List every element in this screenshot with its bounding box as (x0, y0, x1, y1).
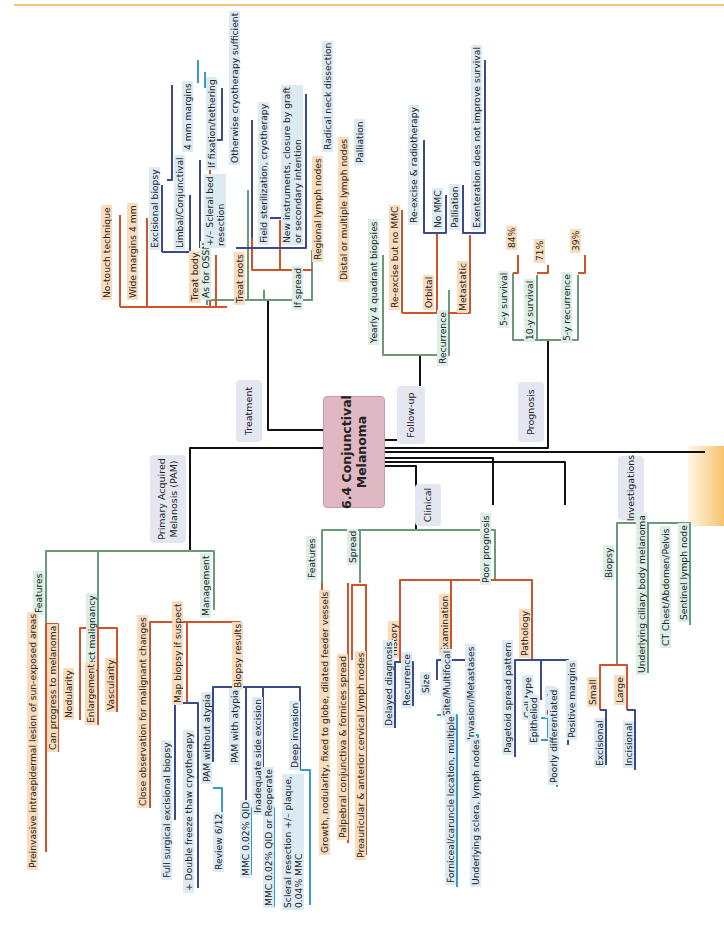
node-large: Large (614, 675, 625, 705)
node-underlying-sclera: Underlying sclera, lymph nodes (470, 738, 481, 887)
node-close-observation: Close observation for malignant changes (137, 615, 148, 808)
node-scleral-resection: Scleral resection +/– plaque, 0.04% MMC (282, 774, 304, 910)
node-ciliary-body: Underlying ciliary body melanoma (636, 513, 647, 675)
node-fixation: If fixation/tethering (206, 77, 217, 170)
node-pam-features: Features (33, 571, 44, 615)
central-topic: 6.4 Conjunctival Melanoma (323, 396, 385, 508)
node-clinical-features: Features (306, 536, 317, 580)
value-10y-survival: 71% (534, 239, 545, 263)
central-topic-title: 6.4 Conjunctival Melanoma (339, 395, 369, 509)
node-excisional: Excisional (594, 718, 605, 768)
node-nodularity: Nodularity (63, 668, 74, 720)
node-reexcise-no-mmc: Re-excise but no MMC (389, 205, 400, 310)
node-5y-recurrence: 5-y recurrence (561, 272, 572, 343)
node-enlargement: Enlargement (85, 662, 96, 725)
node-deep-invasion: Deep invasion (289, 701, 300, 770)
node-excisional-biopsy: Excisional biopsy (149, 167, 160, 250)
node-small: Small (587, 677, 598, 707)
node-positive-margins: Positive margins (566, 660, 577, 740)
node-can-progress: Can progress to melanoma (47, 624, 58, 752)
node-preinvasive: Preinvasive intraepidermal lesion of sun… (27, 612, 38, 870)
node-yearly-biopsies: Yearly 4 quadrant biopsies (368, 219, 379, 345)
node-poor-prognosis: Poor prognosis (480, 513, 491, 585)
node-treat-body: Treat body (189, 251, 200, 303)
node-wide-margins: Wide margins 4 mm (127, 203, 138, 300)
node-scleral-bed: +/– Scleral bed resection (204, 174, 226, 248)
node-poorly-diff: Poorly differentiated (548, 688, 559, 785)
node-biopsy-results: Biopsy results (232, 622, 243, 690)
node-site: Site/Multifocal (441, 649, 452, 718)
node-epitheliod: Epitheliod (528, 695, 539, 745)
category-treatment: Treatment (236, 380, 262, 442)
node-pagetoid: Pagetoid spread pattern (502, 640, 513, 755)
node-incisional: Incisional (623, 721, 634, 768)
node-management: Management (200, 553, 211, 618)
node-radical-neck: Radical neck dissection (322, 41, 333, 152)
node-treat-roots: Treat roots (234, 252, 245, 305)
node-map-biopsy: Map biopsy if suspect (172, 601, 183, 705)
node-growth: Growth, nodularity, fixed to globe, dila… (319, 590, 330, 855)
node-orbital: Orbital (423, 275, 434, 310)
node-as-for-ossn: As for OSSN (200, 241, 211, 300)
node-pathology: Pathology (519, 609, 530, 658)
node-palpebral: Palpebral conjunctiva & fornices spread (337, 654, 348, 840)
node-recurrence-hist: Recurrence (401, 652, 412, 708)
node-invasion: Invasion/Metastases (465, 644, 476, 742)
category-investigations: Investigations (618, 456, 644, 520)
node-pam-without: PAM without atypia (201, 692, 212, 784)
node-review: Review 6/12 (213, 812, 224, 872)
node-distal-ln: Distal or multiple lymph nodes (338, 137, 349, 282)
node-no-touch: No-touch technique (101, 205, 112, 300)
node-pam-with: PAM with atypia (229, 688, 240, 765)
category-pam: Primary Acquired Melanosis (PAM) (150, 455, 186, 543)
node-palliation-fu: Palliation (449, 184, 460, 230)
node-delayed-diagnosis: Delayed diagnosis (383, 640, 394, 728)
node-otherwise-cryo: Otherwise cryotherapy sufficient (229, 11, 240, 165)
node-exenteration: Exenteration does not improve survival (471, 45, 482, 230)
node-reexcise-radio: Re-excise & radiotherapy (408, 105, 419, 225)
category-prognosis: Prognosis (518, 382, 544, 442)
node-mmc-reoperate: MMC 0.02% QID or Reoperate (263, 767, 274, 908)
node-sentinel-ln: Sentinel lymph node (678, 523, 689, 622)
node-limbal: Limbal/Conjunctival (174, 155, 185, 250)
node-biopsy: Biopsy (603, 545, 614, 580)
node-10y-survival: 10-y survival (524, 279, 535, 342)
node-ct-scan: CT Chest/Abdomen/Pelvis (660, 526, 671, 648)
node-double-freeze: + Double freeze thaw cryotherapy (183, 730, 194, 893)
node-mmc-002: MMC 0.02% QID (240, 800, 251, 878)
node-5y-survival: 5-y survival (498, 271, 509, 328)
node-recurrence: Recurrence (437, 310, 448, 366)
node-spread: Spread (347, 529, 358, 565)
node-full-surgical: Full surgical excisional biopsy (161, 740, 172, 880)
node-new-instruments: New instruments, closure by graft or sec… (281, 85, 303, 245)
node-metastatic: Metastatic (457, 261, 468, 313)
node-forniceal: Forniceal/caruncle location, multiple (445, 714, 456, 885)
node-inadequate: Inadequate side excision (252, 697, 263, 815)
category-clinical: Clinical (415, 484, 441, 526)
node-field-sterilization: Field sterilization, cryotherapy (258, 102, 269, 245)
node-no-mmc: No MMC (432, 188, 443, 230)
category-followup: Follow-up (397, 386, 425, 444)
node-size: Size (420, 672, 431, 695)
node-4mm-margins: 4 mm margins (182, 81, 193, 152)
value-5y-recurrence: 39% (570, 229, 581, 253)
node-regional-ln: Regional lymph nodes (312, 156, 323, 262)
node-preauricular: Preauricular & anterior cervical lymph n… (355, 651, 366, 860)
value-5y-survival: 84% (506, 226, 517, 250)
node-if-spread: If spread (292, 266, 303, 310)
node-vascularity: Vascularity (105, 658, 116, 712)
node-palliation-tx: Palliation (354, 119, 365, 165)
node-examination: Examination (439, 594, 450, 655)
